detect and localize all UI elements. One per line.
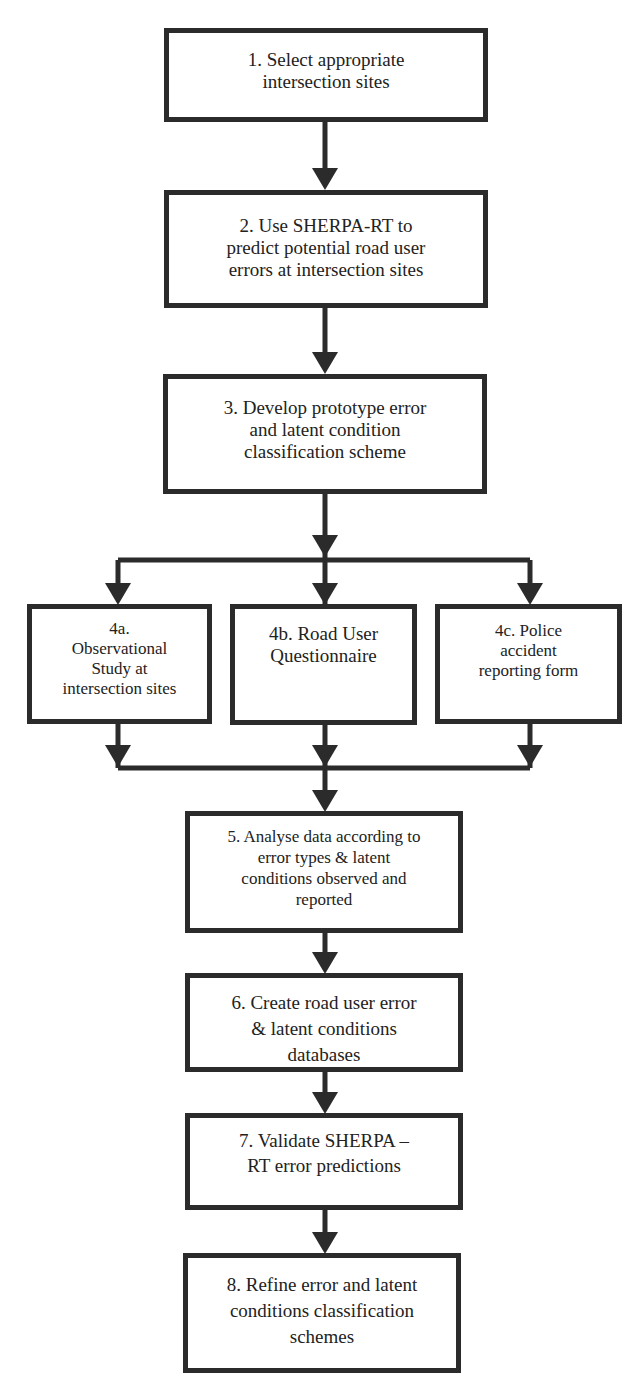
step-8-label: 8. Refine error and latent conditions cl…: [219, 1272, 425, 1350]
step-6-box: 6. Create road user error & latent condi…: [185, 973, 463, 1072]
step-4c-label: 4c. Police accident reporting form: [471, 621, 587, 681]
arrowhead-icon: [517, 745, 543, 767]
step-7-label: 7. Validate SHERPA – RT error prediction…: [231, 1128, 417, 1178]
arrowhead-icon: [312, 952, 338, 974]
step-7-box: 7. Validate SHERPA – RT error prediction…: [185, 1113, 463, 1210]
arrowhead-icon: [105, 745, 131, 767]
step-4b-box: 4b. Road User Questionnaire: [230, 604, 417, 725]
step-5-box: 5. Analyse data according to error types…: [185, 811, 463, 933]
step-1-box: 1. Select appropriate intersection sites: [164, 28, 488, 122]
step-2-box: 2. Use SHERPA-RT to predict potential ro…: [164, 190, 488, 308]
step-4a-label: 4a. Observational Study at intersection …: [55, 619, 185, 699]
arrowhead-icon: [312, 352, 338, 374]
step-3-box: 3. Develop prototype error and latent co…: [163, 374, 487, 494]
step-4c-box: 4c. Police accident reporting form: [435, 604, 622, 724]
arrowhead-icon: [517, 583, 543, 605]
arrowhead-icon: [105, 583, 131, 605]
step-4b-label: 4b. Road User Questionnaire: [261, 623, 386, 667]
step-4a-box: 4a. Observational Study at intersection …: [27, 604, 212, 724]
step-1-label: 1. Select appropriate intersection sites: [240, 49, 413, 93]
step-6-label: 6. Create road user error & latent condi…: [223, 990, 424, 1068]
arrowhead-icon: [312, 1092, 338, 1114]
step-3-label: 3. Develop prototype error and latent co…: [216, 397, 435, 463]
arrowhead-icon: [312, 745, 338, 767]
arrowhead-icon: [312, 583, 338, 605]
arrowhead-icon: [312, 1232, 338, 1254]
step-2-label: 2. Use SHERPA-RT to predict potential ro…: [219, 215, 434, 281]
arrowhead-icon: [312, 790, 338, 812]
step-8-box: 8. Refine error and latent conditions cl…: [183, 1253, 461, 1373]
step-5-label: 5. Analyse data according to error types…: [219, 826, 428, 910]
arrowhead-icon: [312, 535, 338, 557]
arrowhead-icon: [312, 168, 338, 190]
